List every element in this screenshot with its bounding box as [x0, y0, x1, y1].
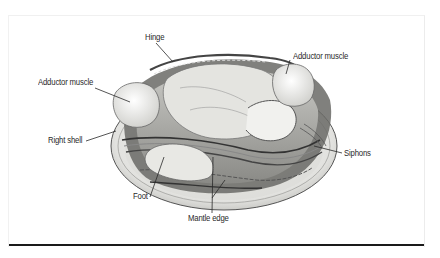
bottom-rule — [9, 244, 424, 246]
adductor-muscle-left — [113, 83, 159, 128]
label-right-shell: Right shell — [48, 135, 82, 145]
label-siphons: Siphons — [344, 148, 371, 158]
adductor-muscle-right — [273, 64, 315, 106]
siphon-curl — [246, 101, 296, 141]
label-adductor-muscle-left: Adductor muscle — [38, 77, 93, 87]
label-foot: Foot — [133, 191, 148, 201]
label-mantle-edge: Mantle edge — [188, 213, 229, 223]
leader-hinge — [156, 43, 173, 62]
label-hinge: Hinge — [145, 32, 164, 42]
label-adductor-muscle-right: Adductor muscle — [293, 51, 348, 61]
